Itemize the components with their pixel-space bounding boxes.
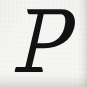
letter-p-glyph (0, 0, 87, 87)
scanned-glyph-image (0, 0, 87, 87)
letter-p-vector (0, 0, 87, 87)
